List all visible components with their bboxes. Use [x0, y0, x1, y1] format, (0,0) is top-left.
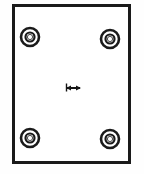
technical-drawing-canvas: Rectangular panel with four corner gromm…	[0, 0, 144, 174]
grommet-top-left	[21, 28, 39, 46]
grommet-bottom-left	[21, 129, 39, 147]
grommet-top-right	[101, 30, 119, 48]
grommet-bottom-right	[101, 130, 119, 148]
panel-drawing-svg	[0, 0, 144, 174]
